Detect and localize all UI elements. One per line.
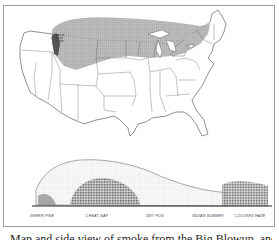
cross-section-label-1: CHEAT GAP [86, 214, 108, 218]
cross-section-label-3: INDIAN SUMMER [192, 214, 224, 218]
map-inset-label: area of dense smoke [56, 34, 70, 43]
cross-section-label-0: GREEN PINE [30, 214, 54, 218]
cross-section-label-4: COLORED HAZE [235, 214, 266, 218]
us-map-illustration [0, 0, 279, 240]
cross-section-label-2: DRY FOG [146, 214, 164, 218]
smoke-cross-section [32, 160, 272, 206]
figure-caption: Map and side view of smoke from the Big … [10, 231, 272, 240]
